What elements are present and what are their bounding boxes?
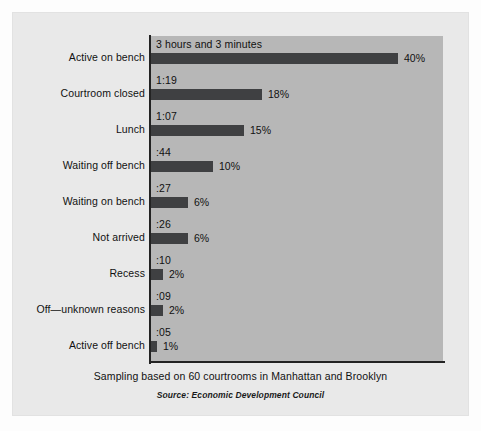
category-label: Waiting on bench [63,195,145,207]
bar [151,233,188,244]
bar-row: Waiting off bench:4410% [0,146,481,182]
duration-label: 1:19 [156,74,177,86]
duration-label: :44 [156,146,171,158]
bar [151,53,398,64]
bar-row: Lunch1:0715% [0,110,481,146]
duration-label: :26 [156,218,171,230]
category-label: Not arrived [93,231,145,243]
bar-row: Not arrived:266% [0,218,481,254]
bar-row: Off—unknown reasons:092% [0,290,481,326]
bar-row: Courtroom closed1:1918% [0,74,481,110]
value-label: 15% [250,124,271,136]
bar [151,341,157,352]
bar [151,125,244,136]
bar [151,89,262,100]
bar [151,197,188,208]
value-label: 6% [194,196,209,208]
category-label: Off—unknown reasons [36,303,145,315]
category-label: Recess [109,267,145,279]
category-label: Active off bench [69,339,145,351]
value-label: 18% [268,88,289,100]
bar-row: Active off bench:051% [0,326,481,362]
bar-row: Recess:102% [0,254,481,290]
duration-label: :10 [156,254,171,266]
chart-canvas: Active on bench3 hours and 3 minutes40%C… [0,0,481,431]
category-label: Lunch [116,123,145,135]
chart-note: Sampling based on 60 courtrooms in Manha… [0,370,481,382]
duration-label: :09 [156,290,171,302]
value-label: 2% [169,268,184,280]
value-label: 2% [169,304,184,316]
category-label: Active on bench [69,51,145,63]
category-label: Waiting off bench [63,159,145,171]
duration-label: :05 [156,326,171,338]
bar [151,305,163,316]
duration-label: :27 [156,182,171,194]
bar-row: Waiting on bench:276% [0,182,481,218]
chart-source: Source: Economic Development Council [0,390,481,400]
value-label: 6% [194,232,209,244]
value-label: 1% [163,340,178,352]
duration-label: 1:07 [156,110,177,122]
value-label: 40% [404,52,425,64]
bar-row: Active on bench3 hours and 3 minutes40% [0,38,481,74]
category-label: Courtroom closed [61,87,145,99]
duration-label: 3 hours and 3 minutes [156,38,262,50]
bar [151,161,213,172]
value-label: 10% [219,160,240,172]
bar [151,269,163,280]
